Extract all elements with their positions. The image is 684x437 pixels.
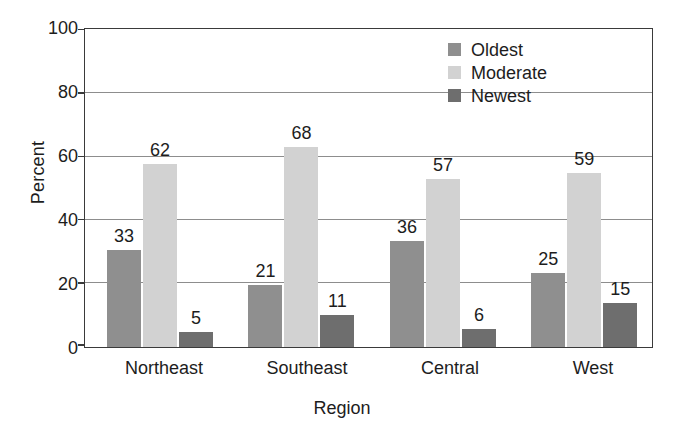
legend-item-moderate: Moderate (448, 61, 547, 84)
x-tick-label-west: West (513, 358, 673, 379)
legend-swatch-icon-oldest (448, 43, 461, 56)
legend-label-moderate: Moderate (471, 64, 547, 82)
bar-northeast-newest (179, 332, 213, 347)
x-tick-label-southeast: Southeast (227, 358, 387, 379)
legend-label-oldest: Oldest (471, 41, 523, 59)
legend-swatch-icon-newest (448, 89, 461, 102)
bar-chart: Percent 100 80 60 40 20 0 33625216811365… (0, 0, 684, 437)
y-tick-mark-80 (78, 92, 85, 93)
bar-value-label-west-moderate: 59 (554, 150, 614, 168)
plot-area: 3362521681136576255915 (84, 28, 653, 348)
y-tick-label-40: 40 (26, 211, 78, 229)
bar-northeast-oldest (107, 250, 141, 347)
y-tick-label-20: 20 (26, 275, 78, 293)
bar-central-newest (462, 329, 496, 347)
bar-west-newest (603, 303, 637, 347)
bar-southeast-newest (320, 315, 354, 347)
y-tick-label-100: 100 (26, 19, 78, 37)
bar-value-label-west-newest: 15 (590, 280, 650, 298)
bar-value-label-southeast-moderate: 68 (271, 124, 331, 142)
x-axis-title: Region (0, 398, 684, 419)
bar-southeast-oldest (248, 285, 282, 347)
y-tick-mark-40 (78, 219, 85, 220)
plot-inner: 3362521681136576255915 (85, 29, 652, 347)
y-tick-label-80: 80 (26, 83, 78, 101)
x-tick-label-central: Central (370, 358, 530, 379)
legend-swatch-icon-moderate (448, 66, 461, 79)
y-tick-mark-20 (78, 282, 85, 283)
gridline-80 (85, 92, 652, 93)
bar-west-oldest (531, 273, 565, 347)
y-axis-tick-labels: 100 80 60 40 20 0 (26, 0, 78, 437)
bar-value-label-central-moderate: 57 (413, 156, 473, 174)
y-tick-mark-100 (78, 29, 85, 30)
bar-value-label-southeast-newest: 11 (307, 292, 367, 310)
bar-value-label-central-newest: 6 (449, 306, 509, 324)
bar-southeast-moderate (284, 147, 318, 347)
bar-west-moderate (567, 173, 601, 347)
legend: Oldest Moderate Newest (448, 38, 547, 107)
bar-central-oldest (390, 241, 424, 347)
y-tick-mark-0 (78, 344, 85, 345)
y-tick-label-0: 0 (26, 339, 78, 357)
x-tick-label-northeast: Northeast (84, 358, 244, 379)
legend-item-oldest: Oldest (448, 38, 547, 61)
bar-value-label-northeast-moderate: 62 (130, 141, 190, 159)
bar-value-label-northeast-newest: 5 (166, 309, 226, 327)
legend-label-newest: Newest (471, 87, 531, 105)
legend-item-newest: Newest (448, 84, 547, 107)
y-tick-label-60: 60 (26, 147, 78, 165)
y-tick-mark-60 (78, 156, 85, 157)
